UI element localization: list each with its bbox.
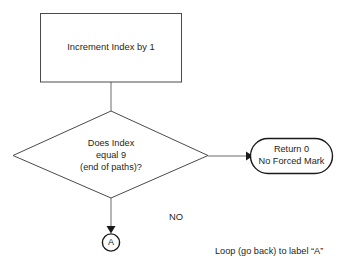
flowchart-canvas: Increment Index by 1 Does Index equal 9 …	[0, 0, 353, 266]
flowchart-svg: Increment Index by 1 Does Index equal 9 …	[0, 0, 353, 266]
decision-node-line3: (end of paths)?	[80, 162, 142, 172]
loop-note: Loop (go back) to label “A”	[215, 246, 323, 256]
process-node-label: Increment Index by 1	[67, 41, 155, 52]
terminal-node-line2: No Forced Mark	[259, 156, 325, 166]
decision-node-line1: Does Index	[88, 138, 135, 148]
edge-label-no: NO	[169, 211, 183, 222]
terminal-node-line1: Return 0	[274, 144, 309, 154]
connector-a-label: A	[108, 237, 114, 247]
arrowhead-to-connector-a-icon	[107, 226, 116, 234]
decision-node-line2: equal 9	[96, 150, 126, 160]
